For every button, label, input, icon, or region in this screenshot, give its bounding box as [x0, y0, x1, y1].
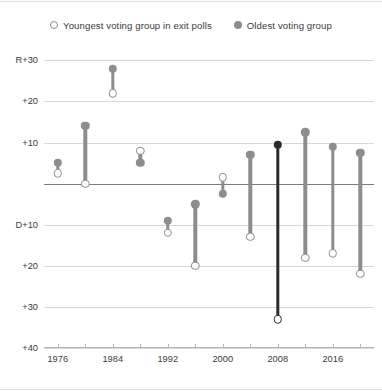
gridline	[44, 143, 374, 144]
data-stem-1996	[194, 204, 197, 266]
oldest-group-point-1984[interactable]	[109, 64, 117, 72]
oldest-group-point-2004[interactable]	[246, 151, 254, 159]
x-axis-tick	[250, 344, 251, 348]
open-circle-icon	[50, 21, 58, 29]
x-axis-tick	[360, 344, 361, 348]
x-axis-tick	[305, 344, 306, 348]
gridline	[44, 348, 374, 349]
bottom-divider	[0, 389, 382, 390]
zero-line	[44, 184, 374, 185]
y-axis-tick-label: R+30	[16, 55, 38, 65]
chart-legend: Youngest voting group in exit polls Olde…	[0, 14, 382, 36]
gridline	[44, 60, 374, 61]
legend-item-youngest: Youngest voting group in exit polls	[50, 20, 212, 31]
y-axis-tick-label: +30	[22, 302, 38, 312]
x-axis-tick	[223, 344, 224, 348]
data-stem-2020	[359, 153, 362, 274]
gridline	[44, 101, 374, 102]
data-stem-2016	[331, 147, 334, 254]
oldest-group-point-2012[interactable]	[301, 128, 309, 136]
x-axis-tick	[85, 344, 86, 348]
x-axis-tick-label: 2008	[267, 354, 288, 364]
legend-label-youngest: Youngest voting group in exit polls	[63, 20, 212, 31]
oldest-group-point-2000[interactable]	[219, 190, 227, 198]
legend-label-oldest: Oldest voting group	[247, 20, 332, 31]
youngest-group-point-2020[interactable]	[356, 270, 364, 278]
data-stem-2012	[304, 132, 307, 257]
gridline	[44, 307, 374, 308]
data-stem-2004	[249, 155, 252, 237]
youngest-group-point-2016[interactable]	[329, 249, 337, 257]
plot-area: R+30+20+10D+10+20+30+4019761984199220002…	[44, 48, 374, 348]
oldest-group-point-2020[interactable]	[356, 149, 364, 157]
y-axis-tick-label: +20	[22, 261, 38, 271]
x-axis-tick-label: 1976	[47, 354, 68, 364]
x-axis-tick	[58, 344, 59, 348]
youngest-group-point-2004[interactable]	[246, 233, 254, 241]
x-axis-tick-label: 2000	[212, 354, 233, 364]
x-axis-tick	[278, 344, 279, 348]
youngest-group-point-2012[interactable]	[301, 253, 309, 261]
youngest-group-point-1988[interactable]	[136, 147, 144, 155]
youngest-group-point-1976[interactable]	[54, 169, 62, 177]
filled-circle-icon	[234, 21, 242, 29]
oldest-group-point-1980[interactable]	[81, 122, 89, 130]
x-axis-tick	[113, 344, 114, 348]
x-axis-tick	[333, 344, 334, 348]
x-axis-tick	[140, 344, 141, 348]
youngest-group-point-2000[interactable]	[219, 173, 227, 181]
oldest-group-point-1988[interactable]	[136, 159, 144, 167]
youngest-group-point-1992[interactable]	[164, 229, 172, 237]
x-axis-tick-label: 2016	[322, 354, 343, 364]
data-stem-1980	[84, 126, 87, 184]
data-stem-2008	[276, 145, 279, 320]
oldest-group-point-1992[interactable]	[164, 216, 172, 224]
gridline	[44, 266, 374, 267]
oldest-group-point-2008[interactable]	[274, 140, 282, 148]
top-divider	[0, 1, 382, 2]
y-axis-tick-label: +10	[22, 138, 38, 148]
y-axis-tick-label: +20	[22, 96, 38, 106]
legend-item-oldest: Oldest voting group	[234, 20, 332, 31]
youngest-group-point-2008[interactable]	[274, 315, 282, 323]
youngest-group-point-1996[interactable]	[191, 262, 199, 270]
x-axis-tick-label: 1992	[157, 354, 178, 364]
y-axis-tick-label: D+10	[16, 220, 38, 230]
youngest-group-point-1984[interactable]	[109, 89, 117, 97]
oldest-group-point-2016[interactable]	[329, 142, 337, 150]
x-axis-tick	[168, 344, 169, 348]
x-axis-tick	[195, 344, 196, 348]
gridline	[44, 225, 374, 226]
oldest-group-point-1976[interactable]	[54, 159, 62, 167]
x-axis-tick-label: 1984	[102, 354, 123, 364]
oldest-group-point-1996[interactable]	[191, 200, 199, 208]
age-gap-election-margin-chart: Youngest voting group in exit polls Olde…	[0, 0, 382, 391]
y-axis-tick-label: +40	[22, 343, 38, 353]
youngest-group-point-1980[interactable]	[81, 179, 89, 187]
